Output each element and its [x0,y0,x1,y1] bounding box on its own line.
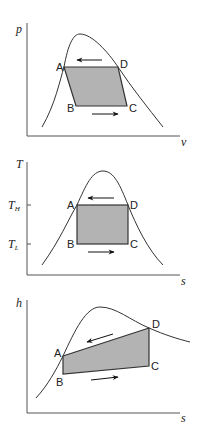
hs-diagram: h s A D B C [16,296,190,425]
hs-cycle-area [63,328,149,374]
hs-x-label: s [181,411,186,425]
hs-y-label: h [16,296,22,310]
ts-diagram: T s TH TL A D B C [8,157,186,288]
ts-th-label: TH [8,198,21,213]
pv-point-d: D [120,58,128,70]
pv-y-label: p [15,22,22,36]
thermo-diagrams: p v A D B C T s TH TL A D B C h s A [0,0,200,431]
pv-point-a: A [56,61,64,73]
pv-cycle-area [64,67,127,106]
hs-point-b: B [56,376,63,388]
ts-point-d: D [130,199,138,211]
hs-point-a: A [54,347,62,359]
pv-diagram: p v A D B C [15,22,187,149]
pv-point-c: C [129,102,137,114]
hs-arrow-right-icon [91,377,118,380]
pv-x-label: v [181,135,187,149]
ts-cycle-area [77,205,128,244]
hs-point-c: C [151,360,159,372]
ts-y-label: T [16,157,24,171]
ts-x-label: s [181,274,186,288]
pv-point-b: B [67,102,74,114]
ts-point-b: B [67,238,74,250]
ts-point-c: C [130,238,138,250]
ts-point-a: A [67,199,75,211]
ts-tl-label: TL [8,237,19,252]
hs-point-d: D [152,318,160,330]
